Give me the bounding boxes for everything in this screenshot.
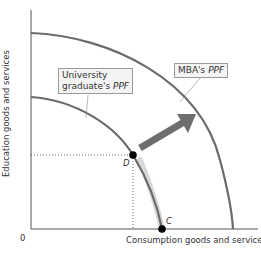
ppf-diagram [0,0,261,260]
point-d [129,151,137,159]
point-c [158,225,166,233]
y-axis-label: Education goods and services [1,57,11,177]
point-c-label: C [166,216,172,226]
mba-label-ppf: PPF [208,65,224,75]
x-axis-label: Consumption goods and services [126,235,261,245]
shift-arrow-icon [140,114,196,148]
univ-label-line2: graduate's [62,81,110,91]
mba-label-prefix: MBA's [178,65,205,75]
point-d-label: D [123,158,130,168]
mba-ppf-label: MBA's PPF [174,63,228,78]
univ-label-ppf: PPF [113,81,129,91]
mba-label-leader [180,78,200,102]
origin-label: 0 [20,233,25,243]
university-graduate-ppf-label: University graduate's PPF [58,68,133,94]
univ-label-line1: University [62,70,107,80]
